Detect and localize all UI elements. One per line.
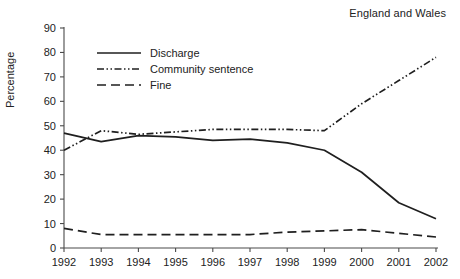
line-chart-plot: 0102030405060708090 19921993199419951996… xyxy=(0,0,460,279)
x-tick-label: 1996 xyxy=(201,256,225,268)
chart-title: England and Wales xyxy=(349,7,446,19)
y-tick-label: 10 xyxy=(44,218,56,230)
y-tick-label: 50 xyxy=(44,120,56,132)
chart-legend: DischargeCommunity sentenceFine xyxy=(97,47,253,91)
y-tick-label: 90 xyxy=(44,22,56,34)
y-tick-label: 70 xyxy=(44,71,56,83)
y-tick-label: 30 xyxy=(44,169,56,181)
legend-label-community-sentence: Community sentence xyxy=(150,63,253,75)
y-tick-label: 40 xyxy=(44,144,56,156)
x-tick-label: 1998 xyxy=(275,256,299,268)
x-tick-label: 1997 xyxy=(238,256,262,268)
legend-label-fine: Fine xyxy=(150,79,171,91)
x-tick-label: 1995 xyxy=(163,256,187,268)
y-tick-label: 60 xyxy=(44,95,56,107)
series-line-discharge xyxy=(64,133,436,219)
x-axis-ticks: 1992199319941995199619971998199920002001… xyxy=(52,248,448,268)
y-tick-label: 0 xyxy=(50,242,56,254)
y-tick-label: 80 xyxy=(44,46,56,58)
x-tick-label: 1999 xyxy=(312,256,336,268)
y-axis-title: Percentage xyxy=(4,52,16,108)
legend-label-discharge: Discharge xyxy=(150,47,200,59)
series-line-fine xyxy=(64,228,436,237)
x-tick-label: 2002 xyxy=(424,256,448,268)
chart-container: England and Wales Percentage 01020304050… xyxy=(0,0,460,279)
y-axis-ticks: 0102030405060708090 xyxy=(44,22,64,254)
x-tick-label: 2000 xyxy=(349,256,373,268)
x-tick-label: 1993 xyxy=(89,256,113,268)
y-tick-label: 20 xyxy=(44,193,56,205)
x-tick-label: 1994 xyxy=(126,256,150,268)
x-tick-label: 2001 xyxy=(387,256,411,268)
x-tick-label: 1992 xyxy=(52,256,76,268)
